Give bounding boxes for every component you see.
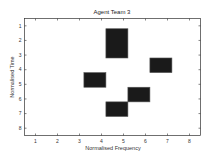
x-tick-label: 7 — [166, 138, 169, 144]
y-tick-label: 6 — [19, 96, 22, 102]
x-tick-label: 3 — [78, 138, 81, 144]
y-tick-label: 4 — [19, 66, 22, 72]
chart: Agent Team 3 12345678 12345678 Normalise… — [0, 0, 211, 160]
x-tick-label: 8 — [188, 138, 191, 144]
x-axis-label: Normalised Frequency — [85, 145, 141, 151]
y-tick-label: 2 — [19, 37, 22, 43]
data-block-5 — [106, 102, 128, 117]
y-axis-label: Normalised Time — [9, 56, 15, 97]
x-tick-label: 2 — [56, 138, 59, 144]
y-tick-label: 5 — [19, 81, 22, 87]
data-block-4 — [128, 87, 150, 102]
y-tick-label: 7 — [19, 110, 22, 116]
y-tick-label: 1 — [19, 23, 22, 29]
plot-area — [84, 29, 172, 117]
data-block-1 — [106, 29, 128, 58]
x-tick-label: 5 — [122, 138, 125, 144]
y-tick-label: 3 — [19, 52, 22, 58]
data-block-3 — [84, 73, 106, 88]
data-block-2 — [150, 58, 172, 73]
x-tick-label: 4 — [100, 138, 103, 144]
x-tick-label: 1 — [34, 138, 37, 144]
y-tick-label: 8 — [19, 125, 22, 131]
chart-title: Agent Team 3 — [94, 9, 132, 15]
x-tick-label: 6 — [144, 138, 147, 144]
